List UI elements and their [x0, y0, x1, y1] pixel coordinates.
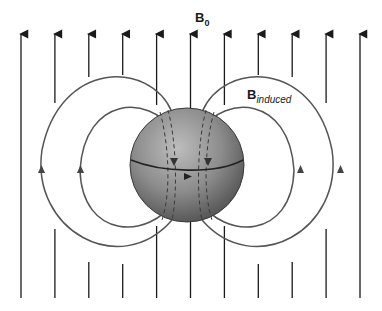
applied-field-label: B0 — [195, 10, 209, 28]
left-outer-arrow-icon — [38, 165, 45, 173]
field-diagram — [0, 0, 382, 311]
right-outer-arrow-icon — [337, 165, 344, 173]
left-inner-arrow-icon — [77, 165, 84, 173]
sphere — [130, 108, 244, 222]
induced-field-label: Binduced — [247, 87, 291, 105]
right-inner-arrow-icon — [297, 165, 304, 173]
